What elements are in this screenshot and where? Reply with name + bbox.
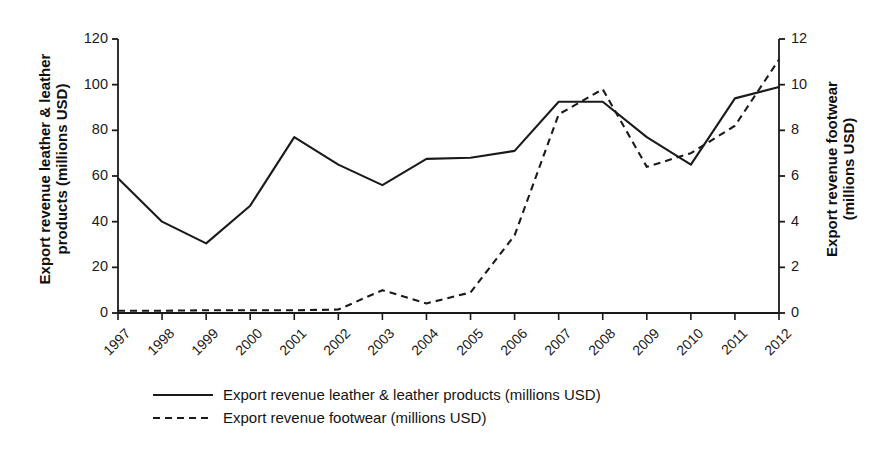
right-tick-label: 2 — [791, 258, 831, 274]
legend-item-footwear: Export revenue footwear (millions USD) — [152, 406, 752, 429]
legend-swatch-dashed-icon — [152, 412, 214, 424]
left-tick-label: 0 — [50, 304, 108, 320]
right-tick-label: 0 — [791, 304, 831, 320]
left-tick-label: 20 — [50, 258, 108, 274]
x-axis-tick-marks — [118, 313, 779, 320]
legend-label-footwear: Export revenue footwear (millions USD) — [223, 409, 486, 426]
legend-swatch-solid-icon — [152, 389, 214, 401]
right-axis-tick-marks — [779, 39, 785, 313]
chart-figure: Export revenue leather & leather product… — [0, 0, 885, 451]
right-tick-label: 12 — [791, 30, 831, 46]
right-tick-label: 8 — [791, 121, 831, 137]
right-tick-label: 4 — [791, 213, 831, 229]
right-tick-label: 10 — [791, 76, 831, 92]
series-line-footwear — [118, 60, 779, 311]
chart-legend: Export revenue leather & leather product… — [152, 383, 752, 429]
legend-item-leather: Export revenue leather & leather product… — [152, 383, 752, 406]
right-tick-label: 6 — [791, 167, 831, 183]
legend-label-leather: Export revenue leather & leather product… — [223, 386, 601, 403]
left-tick-label: 60 — [50, 167, 108, 183]
left-tick-label: 40 — [50, 213, 108, 229]
left-tick-label: 100 — [50, 76, 108, 92]
left-tick-label: 80 — [50, 121, 108, 137]
series-line-leather — [118, 87, 779, 243]
left-tick-label: 120 — [50, 30, 108, 46]
